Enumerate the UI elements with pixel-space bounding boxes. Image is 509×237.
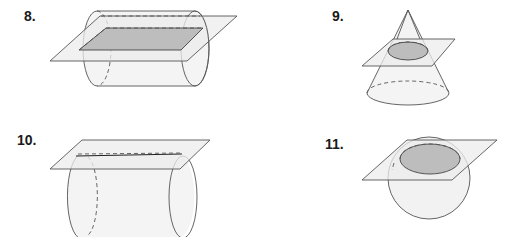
geometry-figures xyxy=(0,0,509,237)
figure-11-sphere xyxy=(362,137,497,219)
figure-10-cylinder xyxy=(50,140,210,237)
figure-8-cylinder xyxy=(50,11,237,86)
figure-9-cone xyxy=(362,10,455,105)
